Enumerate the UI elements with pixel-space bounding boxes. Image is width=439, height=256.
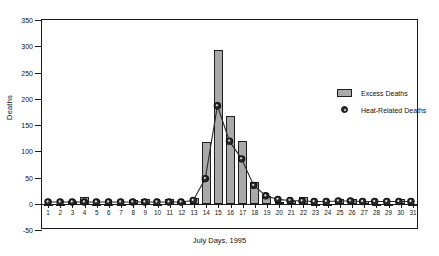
y-tick-label: 350 [21, 17, 33, 24]
x-tick-label: 28 [373, 209, 380, 216]
y-tick-mark [35, 125, 42, 126]
x-tick-label: 16 [227, 209, 234, 216]
x-tick-label: 25 [336, 209, 343, 216]
legend-item-heat-related-deaths: Heat-Related Deaths [337, 106, 426, 114]
data-point-marker [251, 182, 257, 188]
plot-area: -50050100150200250300350 123456789101112… [42, 20, 417, 228]
x-tick-mark [364, 204, 365, 208]
line-series-heat-related-deaths [42, 20, 417, 228]
x-tick-mark [291, 204, 292, 208]
x-tick-mark [133, 204, 134, 208]
y-tick-mark [35, 20, 42, 21]
x-tick-label: 24 [324, 209, 331, 216]
chart-legend: Excess Deaths Heat-Related Deaths [337, 89, 426, 123]
x-tick-label: 17 [239, 209, 246, 216]
x-tick-mark [121, 204, 122, 208]
y-tick-mark [35, 151, 42, 152]
x-tick-label: 18 [251, 209, 258, 216]
y-tick-label: 100 [21, 148, 33, 155]
x-tick-mark [206, 204, 207, 208]
x-tick-mark [182, 204, 183, 208]
x-tick-label: 27 [361, 209, 368, 216]
x-tick-mark [97, 204, 98, 208]
x-tick-mark [316, 204, 317, 208]
x-tick-mark [231, 204, 232, 208]
x-tick-mark [255, 204, 256, 208]
x-tick-label: 3 [71, 209, 75, 216]
x-tick-mark [376, 204, 377, 208]
x-tick-label: 12 [178, 209, 185, 216]
y-tick-label: 50 [25, 174, 33, 181]
x-tick-mark [170, 204, 171, 208]
x-tick-mark [279, 204, 280, 208]
x-tick-label: 20 [276, 209, 283, 216]
x-tick-label: 6 [107, 209, 111, 216]
x-tick-label: 8 [131, 209, 135, 216]
legend-item-excess-deaths: Excess Deaths [337, 89, 426, 97]
x-tick-mark [389, 204, 390, 208]
x-tick-mark [352, 204, 353, 208]
circle-marker-icon [337, 106, 352, 114]
x-tick-mark [303, 204, 304, 208]
x-tick-label: 22 [300, 209, 307, 216]
data-point-marker [190, 197, 196, 203]
y-tick-label: -50 [23, 227, 33, 234]
data-point-marker [214, 103, 220, 109]
x-tick-mark [109, 204, 110, 208]
x-tick-mark [60, 204, 61, 208]
y-tick-label: 200 [21, 95, 33, 102]
y-tick-mark [35, 73, 42, 74]
data-point-marker [202, 175, 208, 181]
x-tick-mark [328, 204, 329, 208]
x-tick-label: 23 [312, 209, 319, 216]
x-tick-label: 29 [385, 209, 392, 216]
bar-swatch-icon [337, 89, 352, 97]
y-axis-title: Deaths [2, 0, 16, 215]
x-tick-label: 31 [409, 209, 416, 216]
data-point-marker [238, 156, 244, 162]
x-tick-label: 26 [349, 209, 356, 216]
x-tick-mark [401, 204, 402, 208]
legend-label: Excess Deaths [361, 90, 408, 97]
y-tick-mark [35, 99, 42, 100]
x-tick-label: 1 [46, 209, 50, 216]
x-tick-label: 10 [154, 209, 161, 216]
y-tick-mark [35, 178, 42, 179]
x-tick-label: 21 [288, 209, 295, 216]
plot-frame: -50050100150200250300350 123456789101112… [41, 19, 418, 229]
x-tick-mark [145, 204, 146, 208]
legend-label: Heat-Related Deaths [361, 107, 426, 114]
x-tick-mark [243, 204, 244, 208]
x-tick-mark [267, 204, 268, 208]
x-tick-label: 5 [95, 209, 99, 216]
x-tick-label: 4 [83, 209, 87, 216]
x-axis-zero-line [42, 204, 417, 205]
data-point-marker [275, 196, 281, 202]
x-tick-mark [72, 204, 73, 208]
x-tick-mark [48, 204, 49, 208]
y-tick-label: 0 [29, 200, 33, 207]
x-tick-label: 11 [166, 209, 173, 216]
x-tick-mark [158, 204, 159, 208]
x-tick-label: 2 [58, 209, 62, 216]
x-tick-label: 30 [397, 209, 404, 216]
x-tick-mark [194, 204, 195, 208]
data-point-marker [263, 193, 269, 199]
y-tick-label: 250 [21, 69, 33, 76]
x-tick-mark [340, 204, 341, 208]
x-tick-label: 15 [215, 209, 222, 216]
y-tick-mark [35, 230, 42, 231]
x-tick-label: 7 [119, 209, 123, 216]
x-tick-mark [85, 204, 86, 208]
x-tick-mark [218, 204, 219, 208]
y-tick-mark [35, 46, 42, 47]
y-tick-mark [35, 204, 42, 205]
data-point-marker [287, 197, 293, 203]
data-point-marker [226, 138, 232, 144]
x-tick-mark [413, 204, 414, 208]
x-tick-label: 13 [191, 209, 198, 216]
x-tick-label: 9 [144, 209, 148, 216]
x-axis-title: July Days, 1995 [0, 236, 439, 245]
x-tick-label: 14 [203, 209, 210, 216]
chart-root: Deaths -50050100150200250300350 12345678… [0, 0, 439, 256]
